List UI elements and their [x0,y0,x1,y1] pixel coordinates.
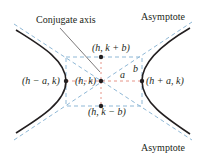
right-vertex-point [140,79,144,83]
right-vertex-label: (h + a, k) [146,76,184,86]
left-vertex-point [64,79,68,83]
top-point [99,55,103,59]
asymptote-bottom-label: Asymptote [141,143,185,153]
center-point [99,79,103,83]
top-point-label: (h, k + b) [92,43,130,53]
asymptote-top-label: Asymptote [141,12,185,22]
conjugate-axis-label: Conjugate axis [36,15,96,25]
a-label: a [120,70,125,80]
b-label: b [133,64,138,74]
bottom-point-label: (h, k − b) [88,107,126,117]
hyperbola-diagram: Conjugate axis Asymptote Asymptote (h, k… [0,0,202,161]
left-vertex-label: (h − a, k) [22,76,60,86]
center-label: (h, k) [75,76,96,86]
